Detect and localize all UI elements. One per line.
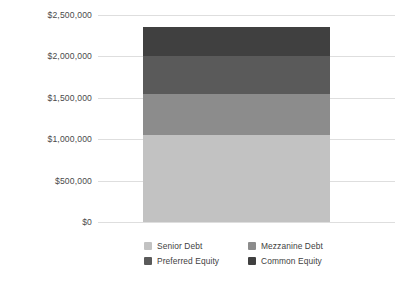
legend-swatch-icon: [248, 257, 256, 265]
bar-segment-mezzanine-debt[interactable]: [143, 94, 330, 135]
stacked-bar-chart: $2,500,000 $2,000,000 $1,500,000 $1,000,…: [0, 0, 408, 293]
bar-segment-common-equity[interactable]: [143, 27, 330, 56]
legend-swatch-icon: [144, 242, 152, 250]
legend-swatch-icon: [144, 257, 152, 265]
legend: Senior Debt Mezzanine Debt Preferred Equ…: [144, 241, 354, 266]
legend-item-common-equity[interactable]: Common Equity: [248, 256, 354, 266]
legend-item-senior-debt[interactable]: Senior Debt: [144, 241, 248, 251]
bar-segment-senior-debt[interactable]: [143, 135, 330, 222]
legend-label: Mezzanine Debt: [261, 241, 323, 251]
legend-item-preferred-equity[interactable]: Preferred Equity: [144, 256, 248, 266]
legend-label: Common Equity: [261, 256, 322, 266]
bar-stack: [0, 15, 408, 222]
gridline-0: [98, 222, 395, 223]
legend-label: Senior Debt: [157, 241, 202, 251]
legend-label: Preferred Equity: [157, 256, 219, 266]
legend-swatch-icon: [248, 242, 256, 250]
bar-segment-preferred-equity[interactable]: [143, 56, 330, 93]
legend-item-mezzanine-debt[interactable]: Mezzanine Debt: [248, 241, 354, 251]
